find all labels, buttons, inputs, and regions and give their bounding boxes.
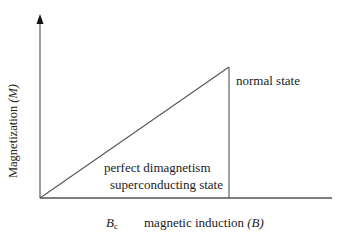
critical-field-symbol: B [106, 215, 114, 230]
critical-field-subscript: c [114, 221, 118, 231]
perfect-diamagnetism-label: perfect dimagnetism [104, 161, 211, 174]
x-axis-label-symbol: (B) [247, 215, 264, 230]
x-axis-label-text: magnetic induction [144, 215, 247, 230]
y-axis-label: Magnetization (M) [6, 84, 21, 178]
y-axis-arrow-icon [37, 14, 44, 24]
normal-state-label: normal state [236, 74, 300, 87]
y-axis-label-text: Magnetization [6, 103, 20, 178]
superconducting-state-label: superconducting state [110, 178, 223, 191]
diagram-canvas [0, 0, 341, 238]
y-axis-label-symbol: (M) [6, 84, 20, 103]
x-axis-label: magnetic induction (B) [144, 216, 264, 229]
critical-field-label: Bc [106, 216, 118, 231]
